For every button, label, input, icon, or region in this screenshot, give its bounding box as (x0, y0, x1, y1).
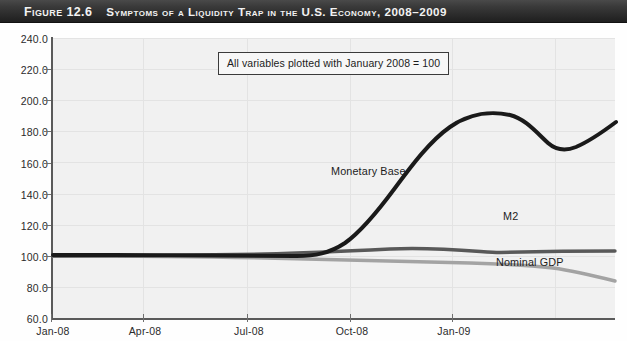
annotation-text: All variables plotted with January 2008 … (227, 57, 440, 69)
series-label-monetary-base: Monetary Base (331, 165, 406, 177)
series-label-m2: M2 (503, 210, 518, 222)
figure-title-bar: Figure 12.6 Symptoms of a Liquidity Trap… (0, 0, 627, 23)
figure-number: Figure 12.6 (24, 5, 92, 19)
chart-area: 240.0 220.0 200.0 180.0 160.0 140.0 120.… (0, 23, 627, 341)
series-label-nominal-gdp: Nominal GDP (496, 256, 564, 268)
figure-title-inner: Figure 12.6 Symptoms of a Liquidity Trap… (24, 0, 447, 23)
annotation-box: All variables plotted with January 2008 … (218, 52, 449, 75)
figure-container: Figure 12.6 Symptoms of a Liquidity Trap… (0, 0, 627, 341)
line-monetary-base (53, 113, 616, 256)
page-title: Symptoms of a Liquidity Trap in the U.S.… (106, 5, 447, 18)
